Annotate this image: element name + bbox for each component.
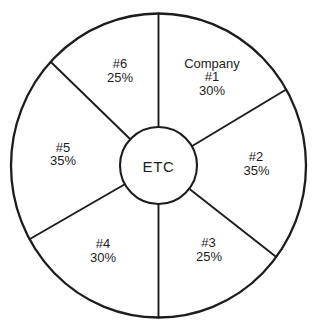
hub-label: ETC (143, 158, 175, 175)
pie-diagram: ETC Company #1 30% #2 35% #3 25% #4 30% … (0, 0, 313, 325)
figure-canvas: ETC Company #1 30% #2 35% #3 25% #4 30% … (0, 0, 313, 325)
slice-percent: 35% (50, 153, 76, 168)
slice-percent: 30% (90, 250, 116, 265)
slice-label-line: #3 (201, 235, 215, 250)
slice-percent: 35% (243, 163, 269, 178)
slice-percent: 25% (196, 249, 222, 264)
slice-percent: 30% (199, 83, 225, 98)
slice-percent: 25% (107, 70, 133, 85)
